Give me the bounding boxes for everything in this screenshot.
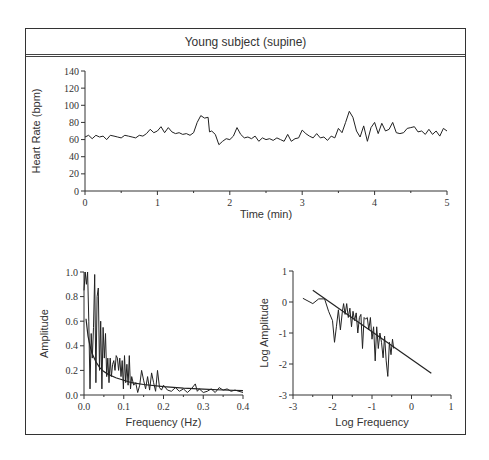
- y-tick-label: 0.8: [66, 291, 79, 302]
- y-tick-label: 60: [69, 134, 79, 145]
- y-tick-label: 0.0: [66, 390, 79, 401]
- x-tick-label: 5: [445, 197, 450, 208]
- x-tick-label: 2: [227, 197, 232, 208]
- y-tick-label: 0: [74, 186, 79, 197]
- y-tick-label: 0: [282, 297, 287, 308]
- data-trace: [85, 111, 447, 144]
- x-tick-label: 0.3: [197, 401, 210, 412]
- y-axis-label: Amplitude: [38, 309, 50, 358]
- x-axis-label: Frequency (Hz): [126, 416, 202, 428]
- x-tick-label: 0.1: [118, 401, 131, 412]
- x-tick-label: 0: [83, 197, 88, 208]
- y-tick-label: 1: [282, 266, 287, 277]
- x-tick-label: 0.0: [78, 401, 91, 412]
- x-tick-label: 1: [155, 197, 160, 208]
- amplitude-spectrum-chart: 0.00.20.40.60.81.00.00.10.20.30.4Frequen…: [38, 267, 249, 429]
- y-tick-label: 40: [69, 151, 79, 162]
- log-log-spectrum-chart: -3-2-101-3-2-101Log FrequencyLog Amplitu…: [258, 266, 454, 429]
- x-tick-label: 3: [300, 197, 305, 208]
- x-axis-label: Log Frequency: [335, 416, 409, 428]
- x-tick-label: 0: [409, 401, 414, 412]
- y-axis-label: Heart Rate (bpm): [30, 89, 42, 174]
- plots-canvas: 020406080100120140012345Time (min)Heart …: [0, 0, 489, 460]
- y-tick-label: 0.2: [66, 365, 79, 376]
- x-tick-label: 0.2: [157, 401, 170, 412]
- y-axis-label: Log Amplitude: [258, 298, 270, 368]
- y-tick-label: 80: [69, 117, 79, 128]
- y-tick-label: 120: [64, 83, 79, 94]
- y-tick-label: -3: [279, 390, 287, 401]
- x-tick-label: 0.4: [237, 401, 250, 412]
- y-tick-label: 20: [69, 168, 79, 179]
- y-tick-label: -1: [279, 328, 287, 339]
- x-tick-label: -1: [368, 401, 376, 412]
- x-tick-label: -3: [289, 401, 297, 412]
- fit-line: [313, 290, 432, 373]
- y-tick-label: 1.0: [66, 267, 79, 278]
- y-tick-label: 0.6: [66, 316, 79, 327]
- x-tick-label: 4: [372, 197, 377, 208]
- y-tick-label: 100: [64, 100, 79, 111]
- x-axis-label: Time (min): [240, 208, 292, 220]
- x-tick-label: 1: [449, 401, 454, 412]
- y-tick-label: 140: [64, 66, 79, 77]
- y-tick-label: -2: [279, 359, 287, 370]
- heart-rate-chart: 020406080100120140012345Time (min)Heart …: [30, 66, 450, 221]
- y-tick-label: 0.4: [66, 340, 79, 351]
- x-tick-label: -2: [328, 401, 336, 412]
